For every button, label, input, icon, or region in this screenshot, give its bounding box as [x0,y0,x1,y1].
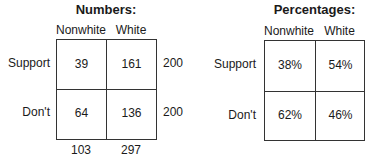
grid-divider-horizontal [57,89,156,90]
col-total-nonwhite: 103 [56,143,106,157]
pct-cell-dont-nonwhite: 62% [265,108,315,122]
cell-dont-nonwhite: 64 [57,106,106,120]
pct-row-label-support: Support [200,57,256,71]
pct-cell-support-white: 54% [316,58,365,72]
cell-support-nonwhite: 39 [57,57,106,71]
numbers-title: Numbers: [56,2,156,17]
col-header-nonwhite: Nonwhite [56,23,106,37]
pct-cell-support-nonwhite: 38% [265,58,315,72]
percentages-grid: 38% 54% 62% 46% [264,40,365,141]
cell-support-white: 161 [107,57,156,71]
pct-grid-divider-horizontal [265,91,364,92]
row-label-dont: Don't [0,105,50,119]
pct-row-label-dont: Don't [200,108,256,122]
percentages-title: Percentages: [264,2,365,17]
col-header-white: White [106,23,156,37]
cell-dont-white: 136 [107,106,156,120]
pct-col-header-white: White [314,24,365,38]
col-total-white: 297 [106,143,156,157]
row-total-dont: 200 [163,105,183,119]
pct-col-header-nonwhite: Nonwhite [264,24,314,38]
pct-cell-dont-white: 46% [316,108,365,122]
row-total-support: 200 [163,56,183,70]
numbers-grid: 39 161 64 136 [56,39,157,140]
row-label-support: Support [0,56,50,70]
